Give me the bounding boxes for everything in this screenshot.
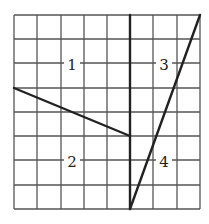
region-grid-diagram: 1 2 3 4 <box>0 0 209 224</box>
svg-text:3: 3 <box>159 56 169 74</box>
grid-lines <box>14 15 200 209</box>
region-label-1: 1 <box>64 55 80 74</box>
region-label-2: 2 <box>64 152 80 171</box>
region-labels: 1 2 3 4 <box>64 55 172 171</box>
region-label-4: 4 <box>156 152 172 171</box>
svg-text:2: 2 <box>67 153 77 171</box>
svg-text:4: 4 <box>159 153 169 171</box>
region-label-3: 3 <box>156 55 172 74</box>
svg-text:1: 1 <box>67 56 77 74</box>
